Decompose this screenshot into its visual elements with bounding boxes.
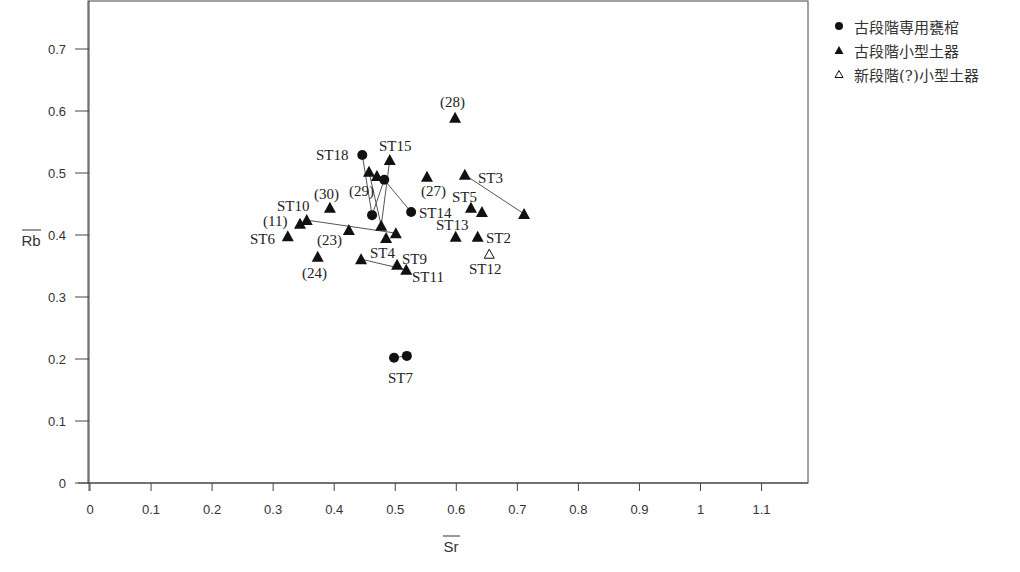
y-axis: 00.10.20.30.40.50.60.7 xyxy=(48,1,89,491)
point-label: (27) xyxy=(421,183,446,200)
connector-line xyxy=(384,180,411,212)
data-point-triangle xyxy=(282,230,294,241)
open-triangle-icon xyxy=(832,69,846,79)
data-point-triangle xyxy=(355,253,367,264)
data-point-triangle xyxy=(324,202,336,213)
point-label: (30) xyxy=(314,186,339,203)
y-tick-label: 0.2 xyxy=(48,352,66,367)
point-label: (28) xyxy=(440,94,465,111)
y-tick-label: 0 xyxy=(59,476,66,491)
point-label: ST2 xyxy=(486,230,511,246)
point-label: (23) xyxy=(317,232,342,249)
point-label: ST12 xyxy=(469,261,502,277)
point-label: ST15 xyxy=(379,138,412,154)
x-tick-label: 0.8 xyxy=(569,502,587,517)
x-tick-label: 0.5 xyxy=(386,502,404,517)
data-point-triangle xyxy=(312,251,324,262)
data-point-triangle xyxy=(472,231,484,242)
x-tick-label: 0.6 xyxy=(447,502,465,517)
point-label: ST10 xyxy=(277,198,310,214)
data-point-circle xyxy=(402,351,412,361)
point-label: ST4 xyxy=(370,245,396,261)
x-tick-label: 0.3 xyxy=(264,502,282,517)
data-point-triangle xyxy=(421,171,433,182)
x-tick-label: 0 xyxy=(86,502,93,517)
data-point-triangle xyxy=(449,112,461,123)
y-axis-title: Rb xyxy=(21,232,40,249)
x-axis: 00.10.20.30.40.50.60.70.80.911.1 xyxy=(78,483,808,517)
x-tick-label: 0.2 xyxy=(203,502,221,517)
legend: 古段階専用甕棺 古段階小型土器 新段階(?)小型土器 xyxy=(832,14,979,86)
point-label: ST5 xyxy=(452,189,477,205)
x-tick-label: 0.9 xyxy=(630,502,648,517)
data-point-triangle xyxy=(375,220,387,231)
legend-label: 古段階専用甕棺 xyxy=(854,16,959,37)
point-label: ST11 xyxy=(412,269,444,285)
x-tick-label: 0.7 xyxy=(508,502,526,517)
point-label: ST6 xyxy=(250,231,276,247)
point-label: (24) xyxy=(302,265,327,282)
point-label: ST7 xyxy=(388,370,414,386)
data-point-circle xyxy=(367,210,377,220)
point-label: ST9 xyxy=(402,251,427,267)
point-label: ST18 xyxy=(316,147,349,163)
y-tick-label: 0.6 xyxy=(48,104,66,119)
connector-line xyxy=(381,160,390,226)
y-tick-label: 0.4 xyxy=(48,228,66,243)
y-tick-label: 0.7 xyxy=(48,42,66,57)
point-label: (11) xyxy=(263,213,287,230)
legend-item-old-burial-jar: 古段階専用甕棺 xyxy=(832,14,979,38)
legend-label: 新段階(?)小型土器 xyxy=(854,64,979,85)
y-tick-label: 0.3 xyxy=(48,290,66,305)
x-tick-label: 0.4 xyxy=(325,502,343,517)
legend-item-old-small-pottery: 古段階小型土器 xyxy=(832,38,979,62)
data-point-triangle xyxy=(459,169,471,180)
legend-item-new-small-pottery: 新段階(?)小型土器 xyxy=(832,62,979,86)
x-axis-title: Sr xyxy=(444,538,459,555)
data-point-circle xyxy=(357,150,367,160)
point-label: ST3 xyxy=(478,170,503,186)
data-point-circle xyxy=(406,207,416,217)
legend-label: 古段階小型土器 xyxy=(854,40,959,61)
plot-frame xyxy=(88,1,808,483)
point-label: (29) xyxy=(349,183,374,200)
y-tick-label: 0.5 xyxy=(48,166,66,181)
filled-circle-icon xyxy=(832,21,846,31)
data-point-triangle xyxy=(518,208,530,219)
x-tick-label: 1.1 xyxy=(753,502,771,517)
x-tick-label: 0.1 xyxy=(142,502,160,517)
x-tick-label: 1 xyxy=(697,502,704,517)
plot-border xyxy=(88,1,808,483)
data-point-circle xyxy=(389,353,399,363)
data-point-triangle xyxy=(476,206,488,217)
y-tick-label: 0.1 xyxy=(48,414,66,429)
data-point-open-triangle xyxy=(484,249,494,258)
point-label: ST13 xyxy=(436,217,469,233)
data-point-triangle xyxy=(384,154,396,165)
filled-triangle-icon xyxy=(832,45,846,55)
